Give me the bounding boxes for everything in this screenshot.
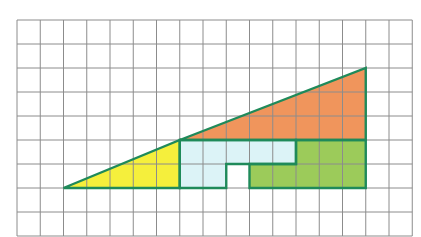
grid-puzzle-canvas — [0, 0, 421, 237]
grid-puzzle-figure — [0, 0, 421, 237]
